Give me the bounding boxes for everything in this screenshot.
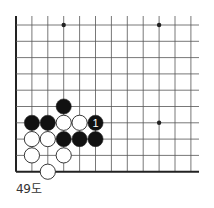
black-stone [88,132,103,147]
white-stone [24,132,39,147]
star-point [62,23,66,27]
star-point [157,23,161,27]
black-stone [24,115,39,130]
black-stone [40,115,55,130]
go-board: 1 [0,0,214,180]
black-stone: 1 [88,115,103,130]
white-stone [56,148,71,163]
white-stone [40,132,55,147]
white-stone [72,115,87,130]
black-stone [56,99,71,114]
white-stone [56,115,71,130]
white-stone [40,164,55,179]
grid-lines [16,16,199,172]
white-stone [24,148,39,163]
stone-move-number: 1 [92,117,98,129]
black-stone [72,132,87,147]
black-stone [56,132,71,147]
star-point [157,121,161,125]
diagram-caption: 49도 [16,182,41,196]
